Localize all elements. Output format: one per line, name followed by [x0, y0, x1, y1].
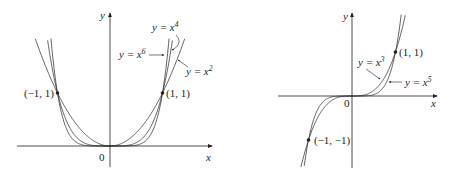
origin-label: 0	[344, 97, 350, 109]
point-1-1	[161, 91, 165, 95]
figure-canvas: y x 0 (−1, 1) (1, 1) y = x4 y = x6 y = x…	[0, 0, 454, 177]
label-x5: y = x5	[404, 75, 432, 88]
point-label-neg1-neg1: (−1, −1)	[314, 134, 351, 147]
label-x6: y = x6	[118, 47, 146, 60]
svg-text:y = x2: y = x2	[185, 64, 213, 77]
odd-powers-graph: y x 0 (1, 1) (−1, −1) y = x3 y = x5	[278, 10, 437, 168]
point-label-neg1-1: (−1, 1)	[24, 87, 54, 100]
x-axis-label: x	[430, 97, 436, 109]
label-x4: y = x4	[151, 20, 179, 33]
point-neg1-1	[56, 91, 60, 95]
point-label-1-1: (1, 1)	[166, 87, 190, 100]
label-x2: y = x2	[185, 64, 213, 77]
point-label-1-1: (1, 1)	[399, 46, 423, 59]
y-axis-label: y	[342, 10, 348, 22]
pointer-x4	[172, 35, 179, 50]
x-axis-label: x	[205, 151, 211, 163]
pointer-x3	[366, 69, 380, 79]
y-axis-label: y	[99, 9, 105, 21]
svg-text:y = x5: y = x5	[404, 75, 432, 88]
origin-label: 0	[99, 151, 105, 163]
svg-text:y = x6: y = x6	[118, 47, 146, 60]
point-neg1-neg1	[307, 138, 311, 142]
label-x3: y = x3	[357, 55, 385, 68]
pointer-x2	[178, 60, 188, 67]
svg-text:y = x4: y = x4	[151, 20, 179, 33]
point-1-1	[394, 50, 398, 54]
even-powers-graph: y x 0 (−1, 1) (1, 1) y = x4 y = x6 y = x…	[17, 9, 213, 167]
svg-text:y = x3: y = x3	[357, 55, 385, 68]
